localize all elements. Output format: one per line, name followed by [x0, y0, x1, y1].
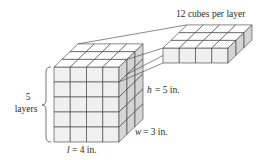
- width-variable: w: [135, 127, 142, 137]
- front-cube-face: [103, 97, 119, 112]
- front-cube-face: [163, 48, 179, 63]
- width-value: = 3 in.: [143, 127, 168, 137]
- front-cube-face: [87, 112, 103, 127]
- layers-brace: [42, 67, 51, 142]
- front-cube-face: [70, 127, 86, 142]
- height-variable: h: [147, 85, 152, 95]
- front-cube-face: [87, 97, 103, 112]
- length-value: = 4 in.: [72, 145, 97, 155]
- layers-count-label: 5: [26, 92, 31, 102]
- front-cube-face: [179, 48, 195, 63]
- front-cube-face: [54, 82, 70, 97]
- front-cube-face: [87, 82, 103, 97]
- front-cube-face: [103, 67, 119, 82]
- front-cube-face: [70, 112, 86, 127]
- single-layer-slab: [163, 25, 252, 63]
- front-cube-face: [70, 82, 86, 97]
- front-cube-face: [70, 97, 86, 112]
- front-cube-face: [196, 48, 212, 63]
- height-value: = 5 in.: [155, 85, 180, 95]
- front-cube-face: [103, 112, 119, 127]
- length-variable: l: [67, 145, 70, 155]
- front-cube-face: [103, 82, 119, 97]
- layers-word-label: layers: [15, 104, 38, 114]
- front-cube-face: [54, 67, 70, 82]
- front-cube-face: [212, 48, 228, 63]
- front-cube-face: [70, 67, 86, 82]
- front-cube-face: [87, 127, 103, 142]
- cubes-per-layer-label: 12 cubes per layer: [176, 9, 246, 19]
- front-cube-face: [87, 67, 103, 82]
- front-cube-face: [103, 127, 119, 142]
- front-cube-face: [54, 112, 70, 127]
- prism-diagram: 5 layers 12 cubes per layer h = 5 in. w …: [0, 0, 274, 160]
- front-cube-face: [54, 97, 70, 112]
- front-cube-face: [54, 127, 70, 142]
